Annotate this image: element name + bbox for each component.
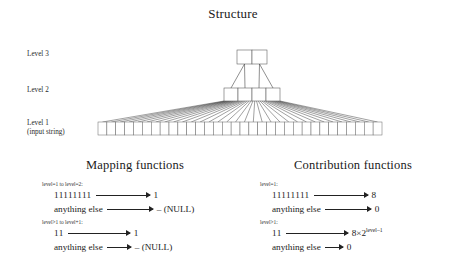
- mapping-rule-2-2: anything else – (NULL): [54, 240, 242, 254]
- contribution-rule-2-2-lhs: anything else: [272, 242, 321, 252]
- contribution-rule-1-2-rhs-base: 0: [375, 204, 380, 214]
- mapping-rule-1-2-rhs: – (NULL): [157, 204, 195, 214]
- contribution-rule-2-1-rhs-sup: level–1: [366, 227, 382, 233]
- contribution-rule-1-2: anything else 0: [272, 202, 460, 216]
- mapping-rule-2-1-rhs: 1: [134, 228, 139, 238]
- contribution-rule-2-1: 11 8×2level–1: [272, 226, 460, 240]
- contribution-rule-2-2-rhs: 0: [347, 242, 352, 252]
- contribution-rule-2-2-rhs-base: 0: [347, 242, 352, 252]
- contribution-rule-2-1-lhs: 11: [272, 228, 282, 238]
- mapping-rule-2-1-lhs: 11: [54, 228, 64, 238]
- contribution-group-2: level>1: 11 8×2level–1 anything else 0: [246, 219, 460, 254]
- mapping-rule-1-1-lhs: 11111111: [54, 190, 92, 200]
- arrow-icon: [107, 247, 131, 248]
- level-2-boxes: [224, 88, 280, 101]
- fan-lines-group: [102, 101, 377, 122]
- mapping-rule-2-1: 11 1: [54, 226, 242, 240]
- mapping-group-2-caption: level>1 to level+1:: [42, 219, 242, 226]
- arrow-icon: [107, 209, 153, 210]
- mapping-rule-1-2: anything else – (NULL): [54, 202, 242, 216]
- contribution-group-1: level=1: 11111111 8 anything else 0: [246, 181, 460, 216]
- level-3-boxes: [237, 50, 267, 64]
- contribution-rule-1-1-rhs: 8: [372, 190, 377, 200]
- mapping-group-1-caption: level=1 to level=2:: [42, 181, 242, 188]
- arrow-icon: [314, 195, 368, 196]
- arrow-icon: [286, 233, 348, 234]
- mapping-rule-1-2-lhs: anything else: [54, 204, 103, 214]
- arrow-icon: [96, 195, 150, 196]
- mapping-functions-panel: Mapping functions level=1 to level=2: 11…: [28, 158, 242, 257]
- contribution-rule-2-2: anything else 0: [272, 240, 460, 254]
- contribution-rule-1-1-rhs-base: 8: [372, 190, 377, 200]
- arrow-icon: [325, 247, 343, 248]
- mapping-rule-1-1: 11111111 1: [54, 188, 242, 202]
- contribution-functions-title: Contribution functions: [246, 158, 460, 173]
- mapping-group-2: level>1 to level+1: 11 1 anything else –…: [28, 219, 242, 254]
- contribution-rule-1-1-lhs: 11111111: [272, 190, 310, 200]
- contribution-group-1-caption: level=1:: [260, 181, 460, 188]
- contribution-group-2-caption: level>1:: [260, 219, 460, 226]
- mapping-rule-2-2-rhs: – (NULL): [135, 242, 173, 252]
- mapping-group-1: level=1 to level=2: 11111111 1 anything …: [28, 181, 242, 216]
- contribution-rule-1-1: 11111111 8: [272, 188, 460, 202]
- contribution-rule-2-1-rhs: 8×2level–1: [352, 228, 383, 238]
- structure-diagram: [0, 0, 466, 158]
- arrow-icon: [325, 209, 371, 210]
- contribution-rule-1-2-rhs: 0: [375, 204, 380, 214]
- mapping-rule-1-1-rhs: 1: [154, 190, 159, 200]
- arrow-icon: [68, 233, 130, 234]
- mapping-rule-2-2-lhs: anything else: [54, 242, 103, 252]
- mapping-functions-title: Mapping functions: [28, 158, 242, 173]
- level-1-boxes: [98, 122, 382, 135]
- level2-to-level3-connectors: [231, 64, 273, 88]
- contribution-rule-1-2-lhs: anything else: [272, 204, 321, 214]
- contribution-functions-panel: Contribution functions level=1: 11111111…: [246, 158, 460, 257]
- contribution-rule-2-1-rhs-base: 8×2: [352, 228, 366, 238]
